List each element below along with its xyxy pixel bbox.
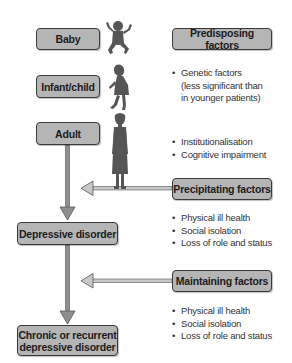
life-stage-infant-child-label: Infant/child (41, 81, 95, 93)
depressive-disorder-box: Depressive disorder (17, 222, 118, 245)
life-stage-infant-child-box: Infant/child (36, 75, 100, 98)
maintaining-factors-box: Maintaining factors (172, 270, 272, 292)
precipitating-item: Loss of role and status (172, 237, 290, 250)
arrow-maintaining-to-line (81, 274, 172, 289)
life-stage-adult-label: Adult (55, 128, 81, 140)
adult-woman-silhouette-icon (108, 112, 132, 190)
life-stage-baby-label: Baby (56, 33, 81, 45)
predisposing-factors-box: Predisposing factors (172, 28, 272, 50)
child-silhouette-icon (106, 63, 132, 113)
precipitating-factors-list: Physical ill health Social isolation Los… (172, 212, 290, 250)
predisposing-factors-list-2: Institutionalisation Cognitive impairmen… (172, 136, 290, 161)
arrow-depressive-to-chronic (60, 245, 75, 324)
precipitating-item: Social isolation (172, 225, 290, 238)
precipitating-item: Physical ill health (172, 212, 290, 225)
arrow-adult-to-depressive (60, 145, 75, 220)
precipitating-factors-box: Precipitating factors (172, 178, 272, 200)
depressive-disorder-label: Depressive disorder (19, 228, 116, 240)
predisposing-item-genetic-note-2: in younger patients) (172, 92, 290, 105)
predisposing-item-genetic-note-1: (less significant than (172, 80, 290, 93)
maintaining-item: Social isolation (172, 318, 290, 331)
predisposing-item-cognitive-impairment: Cognitive impairment (172, 149, 290, 162)
predisposing-factors-list-1: Genetic factors (less significant than i… (172, 67, 290, 105)
maintaining-item: Physical ill health (172, 305, 290, 318)
chronic-recurrent-disorder-box: Chronic or recurrent depressive disorder (17, 325, 118, 356)
predisposing-item-institutionalisation: Institutionalisation (172, 136, 290, 149)
predisposing-factors-label: Predisposing factors (173, 27, 271, 51)
life-stage-adult-box: Adult (36, 122, 100, 145)
life-stage-baby-box: Baby (36, 28, 100, 50)
maintaining-factors-label: Maintaining factors (176, 275, 268, 287)
baby-silhouette-icon (104, 20, 134, 60)
predisposing-item-genetic: Genetic factors (172, 67, 290, 80)
maintaining-factors-list: Physical ill health Social isolation Los… (172, 305, 290, 343)
precipitating-factors-label: Precipitating factors (173, 183, 270, 195)
chronic-recurrent-disorder-label: Chronic or recurrent depressive disorder (18, 329, 116, 353)
maintaining-item: Loss of role and status (172, 330, 290, 343)
